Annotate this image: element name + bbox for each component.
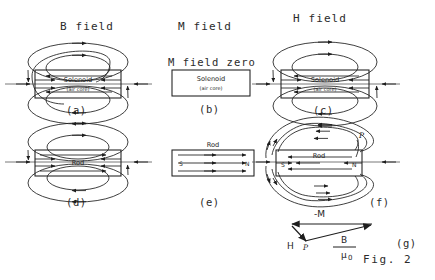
- panel-b-object-sublabel: (air core): [200, 85, 223, 91]
- panel-f-object-label: Rod: [313, 152, 326, 160]
- figure-drawing: Solenoid (air core) Solenoid (air core): [0, 0, 435, 280]
- panel-a-object-label: Solenoid: [64, 76, 92, 84]
- panel-b-m-field-solenoid: Solenoid (air core): [172, 70, 250, 96]
- panel-f-point-p-label: P: [358, 131, 365, 140]
- vector-label-mu-subscript: 0: [348, 254, 352, 262]
- panel-c-object-label: Solenoid: [311, 76, 339, 84]
- panel-b-object-label: Solenoid: [197, 75, 225, 83]
- panel-c-h-field-solenoid: Solenoid (air core): [252, 42, 400, 126]
- panel-a-b-field-solenoid: Solenoid (air core): [5, 43, 152, 124]
- vector-label-b-numerator: B: [341, 235, 347, 245]
- panel-g-vector-triangle: -M H P B μ 0: [287, 209, 372, 262]
- panel-c-object-sublabel: (air core): [314, 86, 337, 92]
- panel-d-object-label: Rod: [72, 159, 85, 167]
- panel-a-object-sublabel: (air core): [67, 86, 90, 92]
- vector-label-h: H: [287, 241, 294, 251]
- panel-e-m-field-rod: Rod S N: [172, 141, 254, 176]
- panel-e-pole-south: S: [179, 160, 183, 167]
- panel-f-pole-north: N: [352, 161, 357, 168]
- figure-2-magnetic-fields: B field M field H field M field zero (a)…: [0, 0, 435, 280]
- vector-point-p-label: P: [302, 243, 309, 252]
- panel-d-b-field-rod: Rod: [5, 123, 152, 202]
- vector-label-minus-m: -M: [314, 209, 325, 219]
- panel-f-h-field-rod: Rod S N P: [252, 117, 400, 207]
- panel-e-pole-north: N: [245, 160, 250, 167]
- panel-f-pole-south: S: [281, 161, 285, 168]
- panel-e-object-label: Rod: [207, 141, 220, 149]
- vector-label-mu-denominator: μ: [341, 250, 347, 260]
